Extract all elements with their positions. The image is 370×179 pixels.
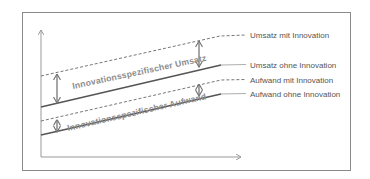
diagram-svg: Innovationsspezifischer Umsatz Innovatio… [0, 0, 370, 179]
annotation-umsatz-gap: Innovationsspezifischer Umsatz [71, 53, 207, 91]
label-umsatz-ohne-innovation: Umsatz ohne Innovation [250, 61, 336, 70]
label-aufwand-ohne-innovation: Aufwand ohne Innovation [250, 90, 340, 99]
label-aufwand-mit-innovation: Aufwand mit Innovation [250, 76, 333, 85]
diagram-canvas: Innovationsspezifischer Umsatz Innovatio… [0, 0, 370, 179]
label-umsatz-mit-innovation: Umsatz mit Innovation [250, 31, 329, 40]
annotation-aufwand-gap: Innovationsspezifischer Aufwand [66, 91, 207, 133]
